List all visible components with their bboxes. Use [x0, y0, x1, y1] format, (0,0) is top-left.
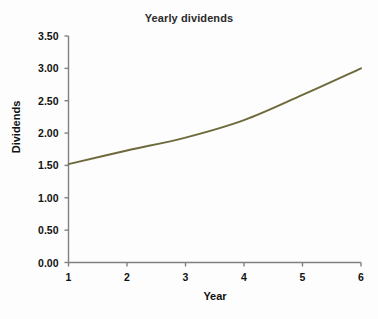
- x-tick-label: 4: [234, 272, 254, 283]
- x-tick-label: 5: [293, 272, 313, 283]
- axes-group: [68, 36, 361, 263]
- y-axis-title: Dividends: [10, 87, 22, 167]
- x-tick-label: 6: [351, 272, 371, 283]
- y-tick-label: 0.00: [23, 258, 59, 269]
- y-tick-label: 3.00: [23, 63, 59, 74]
- x-tick-label: 3: [176, 272, 196, 283]
- y-tick-label: 0.50: [23, 225, 59, 236]
- chart-container: Yearly dividends 0.000.501.001.502.002.5…: [0, 0, 378, 319]
- x-tick-label: 2: [117, 272, 137, 283]
- y-tick-label: 1.50: [23, 160, 59, 171]
- x-axis-title: Year: [68, 290, 362, 302]
- y-tick-label: 1.00: [23, 193, 59, 204]
- y-tick-label: 3.50: [23, 31, 59, 42]
- y-tick-label: 2.50: [23, 96, 59, 107]
- x-tick-label: 1: [59, 272, 79, 283]
- data-series-line: [69, 68, 362, 164]
- y-tick-label: 2.00: [23, 128, 59, 139]
